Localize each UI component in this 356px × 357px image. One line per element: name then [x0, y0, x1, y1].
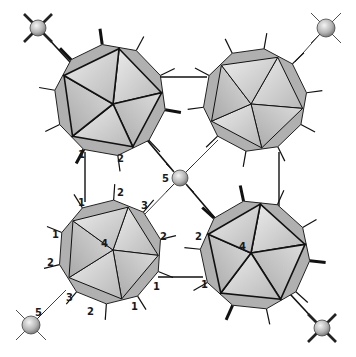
- vertex-label: 1: [78, 149, 85, 160]
- center-vertex-label: 4: [239, 241, 246, 252]
- vertex-label: 3: [141, 200, 148, 211]
- spoke-bond: [160, 68, 174, 75]
- spoke-bond: [100, 29, 102, 45]
- vertex-label: 1: [52, 229, 59, 240]
- sphere-atom: [172, 170, 188, 186]
- vertex-label: 2: [160, 231, 167, 242]
- sphere-atom: [30, 20, 46, 36]
- vertex-label: 2: [117, 187, 124, 198]
- spoke-bond: [39, 87, 55, 90]
- cluster-bottom-left: 4: [44, 184, 176, 320]
- spoke-bond: [136, 36, 144, 50]
- vertex-label: 1: [78, 197, 85, 208]
- spoke-bond: [195, 68, 209, 76]
- spoke-bond: [310, 261, 326, 263]
- spoke-bond: [138, 296, 146, 310]
- cluster-diagram: 44 55 12123122132121: [0, 0, 356, 357]
- spoke-bond: [114, 184, 115, 200]
- spoke-bond: [165, 110, 181, 113]
- vertex-label: 2: [117, 153, 124, 164]
- sphere-atom: [317, 19, 335, 37]
- spoke-bond: [243, 151, 246, 167]
- cluster-top-right: [188, 33, 323, 167]
- vertex-label: 2: [47, 257, 54, 268]
- spoke-bond: [264, 33, 267, 49]
- center-vertex-label: 4: [101, 238, 108, 249]
- spoke-bond: [296, 292, 308, 303]
- spoke-bond: [240, 186, 243, 202]
- sphere-bottom-left-cap: 5: [16, 307, 46, 340]
- spoke-bond: [306, 91, 322, 93]
- spoke-bond: [301, 124, 315, 132]
- sphere-atom: [22, 316, 40, 334]
- cluster-top-left: [39, 29, 181, 172]
- sphere-label: 5: [162, 173, 169, 184]
- vertex-label: 1: [201, 279, 208, 290]
- spoke-bond: [45, 125, 59, 132]
- spoke-bond: [226, 305, 233, 320]
- sphere-label: 5: [35, 307, 42, 318]
- diagram-canvas: 44 55 12123122132121: [0, 0, 356, 357]
- spoke-bond: [184, 248, 200, 250]
- sphere-bottom-right-cap: [308, 314, 336, 342]
- bond-center-br: [186, 184, 215, 218]
- sphere-atom: [314, 320, 330, 336]
- spoke-bond: [303, 220, 317, 228]
- vertex-label: 2: [195, 231, 202, 242]
- sphere-top-right-cap: [311, 13, 341, 43]
- vertex-label: 2: [87, 306, 94, 317]
- spoke-bond: [292, 53, 304, 64]
- vertex-label: 1: [131, 301, 138, 312]
- vertex-label: 1: [153, 281, 160, 292]
- spoke-bond: [188, 107, 204, 109]
- bond-center-tl: [147, 140, 174, 172]
- vertex-label: 3: [66, 292, 73, 303]
- spoke-bond: [105, 304, 106, 320]
- sphere-top-left-cap: [24, 14, 52, 42]
- spoke-bond: [225, 39, 232, 53]
- spoke-bond: [266, 309, 269, 325]
